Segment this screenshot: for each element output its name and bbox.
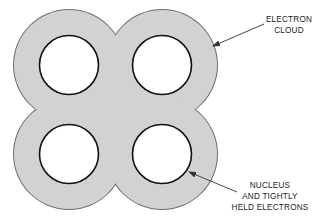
nucleus-label-line1: NUCLEUS [250, 181, 291, 190]
nucleus-top-left [40, 36, 99, 95]
electron-cloud-label: ELECTRON CLOUD [266, 15, 312, 35]
nucleus-label-line2: AND TIGHTLY [242, 192, 298, 201]
electron-cloud-label-line2: CLOUD [274, 26, 304, 35]
electron-cloud [13, 9, 218, 210]
nucleus-label-line3: HELD ELECTRONS [232, 203, 309, 212]
nucleus-bottom-right [133, 125, 192, 184]
electron-cloud-arrow [213, 24, 264, 46]
nucleus-top-right [133, 36, 192, 95]
nucleus-bottom-left [40, 125, 99, 184]
electron-cloud-label-line1: ELECTRON [266, 15, 312, 24]
nucleus-label: NUCLEUS AND TIGHTLY HELD ELECTRONS [232, 181, 309, 212]
electron-cloud-diagram: ELECTRON CLOUD NUCLEUS AND TIGHTLY HELD … [0, 0, 321, 219]
